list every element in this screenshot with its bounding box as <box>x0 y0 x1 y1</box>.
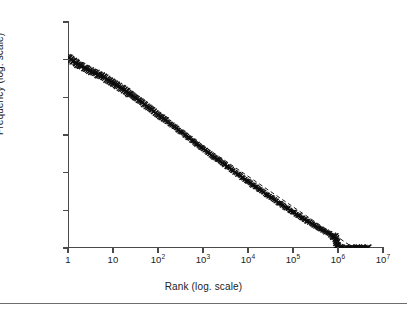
power-law-fit-line <box>68 54 354 248</box>
scatter-marks <box>68 22 383 248</box>
plot-area: 110102103104105106110102103104105106107 <box>68 22 383 248</box>
x-tick-label: 106 <box>331 255 346 265</box>
y-tick-mark <box>63 172 69 173</box>
x-tick-mark <box>247 247 248 253</box>
y-tick-mark <box>63 97 69 98</box>
data-layer <box>68 22 383 248</box>
y-tick-mark <box>63 21 69 22</box>
x-tick-mark <box>67 247 68 253</box>
x-axis-title: Rank (log. scale) <box>0 281 407 292</box>
x-tick-mark <box>382 247 383 253</box>
x-tick-label: 103 <box>196 255 211 265</box>
y-tick-mark <box>63 59 69 60</box>
footer-rule <box>0 303 407 304</box>
y-tick-mark <box>63 134 69 135</box>
x-tick-mark <box>292 247 293 253</box>
x-tick-label: 102 <box>151 255 166 265</box>
figure-panel: 110102103104105106110102103104105106107 … <box>0 0 407 312</box>
y-axis-title: Frequency (log. scale) <box>0 33 5 135</box>
x-tick-label: 104 <box>241 255 256 265</box>
y-tick-mark <box>63 210 69 211</box>
x-tick-label: 105 <box>286 255 301 265</box>
x-tick-mark <box>202 247 203 253</box>
x-tick-label: 107 <box>376 255 391 265</box>
x-tick-mark <box>337 247 338 253</box>
x-tick-label: 1 <box>65 255 70 265</box>
x-tick-mark <box>112 247 113 253</box>
x-tick-mark <box>157 247 158 253</box>
x-tick-label: 10 <box>108 255 119 265</box>
